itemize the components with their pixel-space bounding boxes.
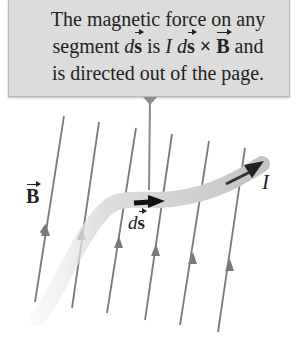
callout-pointer [143,97,157,190]
ds-label: ds [128,212,145,234]
field-label-B: B [26,185,39,208]
magnetic-field-diagram [0,0,299,338]
current-label-I: I [262,170,269,195]
